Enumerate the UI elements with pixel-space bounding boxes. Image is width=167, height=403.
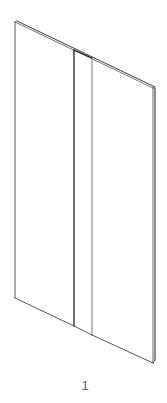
panel-drawing (0, 0, 167, 403)
right-panel (92, 88, 155, 363)
left-panel (15, 22, 74, 326)
part-number-label: 1 (79, 378, 91, 393)
center-strip (74, 50, 92, 335)
